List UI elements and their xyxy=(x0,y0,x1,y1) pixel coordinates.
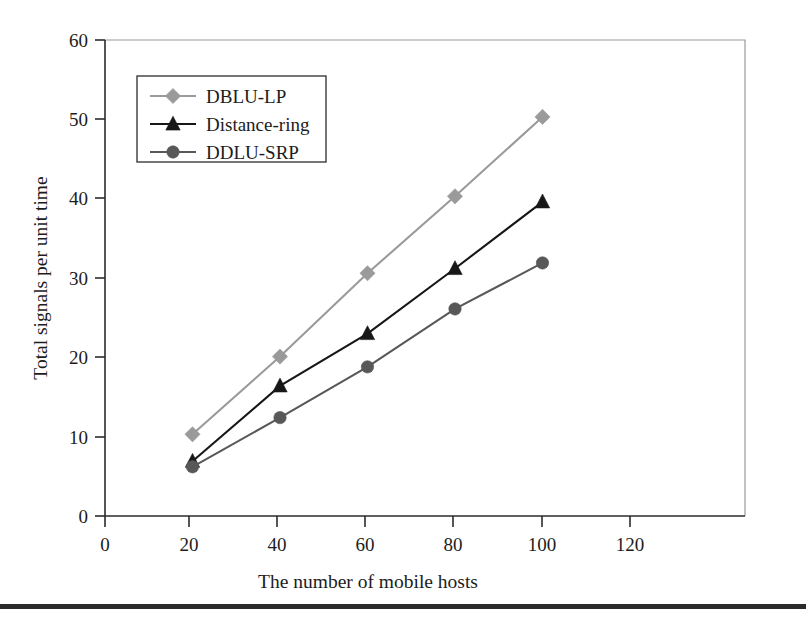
legend-label-2: DDLU-SRP xyxy=(206,142,299,163)
data-point-2-4 xyxy=(536,257,548,269)
figure-container: 60 50 40 30 20 10 0 Total signals per un… xyxy=(0,0,806,625)
y-tick-label-30: 30 xyxy=(69,268,88,289)
y-tick-label-10: 10 xyxy=(69,427,88,448)
data-point-2-1 xyxy=(274,411,286,423)
y-axis: 60 50 40 30 20 10 0 Total signals per un… xyxy=(30,30,105,527)
y-tick-label-20: 20 xyxy=(69,347,88,368)
y-axis-title: Total signals per unit time xyxy=(30,176,51,379)
x-tick-label-100: 100 xyxy=(528,534,557,555)
series-layer xyxy=(185,109,550,473)
series-distance-ring xyxy=(185,194,549,467)
legend-label-1: Distance-ring xyxy=(206,114,310,135)
legend-entries: DBLU-LPDistance-ringDDLU-SRP xyxy=(150,86,310,163)
y-tick-label-40: 40 xyxy=(69,188,88,209)
x-tick-label-120: 120 xyxy=(616,534,645,555)
line-chart: 60 50 40 30 20 10 0 Total signals per un… xyxy=(0,0,806,600)
bottom-rule xyxy=(0,604,806,609)
x-tick-label-0: 0 xyxy=(100,534,110,555)
x-axis-title: The number of mobile hosts xyxy=(258,571,478,592)
data-point-1-4 xyxy=(535,194,549,208)
data-point-2-2 xyxy=(361,361,373,373)
y-tick-label-60: 60 xyxy=(69,30,88,51)
x-tick-label-20: 20 xyxy=(180,534,199,555)
legend-label-0: DBLU-LP xyxy=(206,86,286,107)
y-tick-label-0: 0 xyxy=(79,506,89,527)
data-point-1-2 xyxy=(360,326,374,340)
data-point-1-3 xyxy=(448,261,462,275)
data-point-1-1 xyxy=(273,378,287,392)
y-tick-label-50: 50 xyxy=(69,109,88,130)
legend: DBLU-LPDistance-ringDDLU-SRP xyxy=(137,76,326,163)
data-point-2-3 xyxy=(449,303,461,315)
x-tick-label-80: 80 xyxy=(444,534,463,555)
x-tick-label-60: 60 xyxy=(356,534,375,555)
data-point-2-0 xyxy=(186,461,198,473)
legend-marker-circle-icon xyxy=(167,146,179,158)
x-axis: 0 20 40 60 80 100 120 The number of mobi… xyxy=(100,516,745,592)
x-tick-label-40: 40 xyxy=(268,534,287,555)
series-ddlu-srp xyxy=(186,257,548,473)
